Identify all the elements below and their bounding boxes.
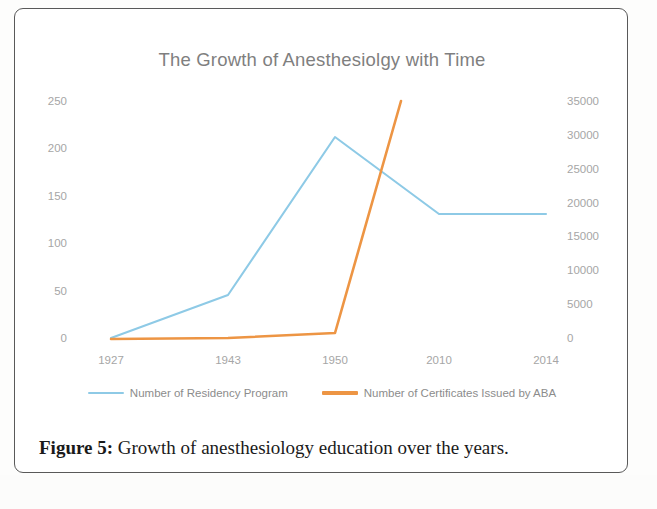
legend-swatch-orange-line-icon [322, 391, 358, 394]
y-axis-left-tick: 150 [27, 191, 67, 203]
y-axis-right-tick: 20000 [567, 198, 623, 210]
figure-caption-label: Figure 5: [39, 437, 113, 458]
scan-bottom-edge [0, 475, 657, 509]
y-axis-left-tick: 250 [27, 96, 67, 108]
x-axis-tick: 2010 [409, 355, 469, 367]
y-axis-right-tick: 10000 [567, 265, 623, 277]
y-axis-left-tick: 50 [27, 286, 67, 298]
x-axis-tick: 1950 [305, 355, 365, 367]
chart-legend: Number of Residency Program Number of Ce… [15, 387, 628, 399]
x-axis-tick: 1943 [198, 355, 258, 367]
legend-item-residency-program[interactable]: Number of Residency Program [88, 387, 288, 399]
y-axis-right-tick: 25000 [567, 164, 623, 176]
y-axis-right-tick: 30000 [567, 130, 623, 142]
figure-caption: Figure 5: Growth of anesthesiology educa… [39, 437, 609, 459]
legend-label-residency-program: Number of Residency Program [130, 387, 288, 399]
figure-caption-text: Growth of anesthesiology education over … [113, 437, 509, 458]
y-axis-right-tick: 35000 [567, 96, 623, 108]
x-axis-tick: 1927 [81, 355, 141, 367]
series-line-certificates-aba [111, 101, 401, 339]
y-axis-left-tick: 200 [27, 143, 67, 155]
y-axis-left-tick: 100 [27, 238, 67, 250]
figure-box: The Growth of Anesthesiolgy with Time 25… [14, 8, 628, 473]
legend-label-certificates-aba: Number of Certificates Issued by ABA [364, 387, 556, 399]
legend-item-certificates-aba[interactable]: Number of Certificates Issued by ABA [322, 387, 556, 399]
y-axis-left-tick: 0 [27, 333, 67, 345]
chart-area: The Growth of Anesthesiolgy with Time 25… [15, 9, 628, 417]
legend-swatch-blue-line-icon [88, 392, 124, 395]
x-axis-tick: 2014 [516, 355, 576, 367]
y-axis-right-tick: 0 [567, 333, 623, 345]
y-axis-right-tick: 15000 [567, 231, 623, 243]
y-axis-right-tick: 5000 [567, 299, 623, 311]
series-line-residency-program [111, 137, 546, 338]
